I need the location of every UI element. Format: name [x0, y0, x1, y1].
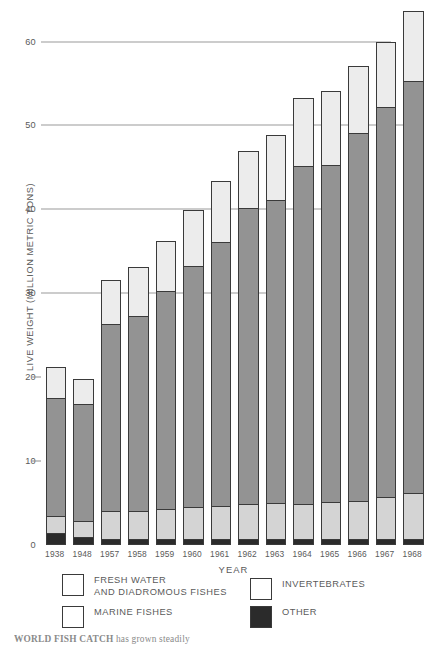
bar-1960: [183, 210, 204, 545]
bar-segment-other-1960: [183, 539, 204, 545]
legend-label-marine: MARINE FISHES: [94, 606, 173, 619]
bar-segment-marine-1963: [266, 200, 287, 503]
bar-segment-fresh-1964: [293, 504, 314, 539]
bar-segment-invert-1958: [128, 267, 149, 316]
y-tick-label-60: 60: [25, 37, 41, 47]
fish-catch-chart-figure: LIVE WEIGHT (MILLION METRIC TONS) 010203…: [0, 0, 432, 646]
legend-item-other: OTHER: [250, 606, 317, 628]
legend-swatch-invert: [250, 578, 272, 600]
y-tick-mark-10: [32, 461, 41, 462]
bar-1965: [321, 91, 342, 545]
legend-label-line1: INVERTEBRATES: [282, 579, 365, 591]
bar-1958: [128, 267, 149, 545]
bar-segment-fresh-1966: [348, 501, 369, 539]
bar-segment-marine-1960: [183, 266, 204, 508]
x-tick-label-1968: 1968: [399, 549, 427, 559]
legend-label-invert: INVERTEBRATES: [282, 578, 365, 591]
bar-1968: [403, 11, 424, 545]
bar-1963: [266, 135, 287, 545]
bar-segment-marine-1957: [101, 324, 122, 510]
legend-label-fresh: FRESH WATERAND DIADROMOUS FISHES: [94, 574, 227, 598]
bar-segment-fresh-1967: [376, 497, 397, 539]
legend-label-line1: MARINE FISHES: [94, 607, 173, 619]
bar-segment-fresh-1961: [211, 506, 232, 540]
bar-segment-marine-1965: [321, 165, 342, 502]
y-axis-title: LIVE WEIGHT (MILLION METRIC TONS): [25, 152, 35, 402]
bar-segment-fresh-1968: [403, 493, 424, 539]
bar-segment-invert-1963: [266, 135, 287, 200]
bar-segment-other-1965: [321, 539, 342, 545]
x-tick-label-1961: 1961: [206, 549, 234, 559]
bar-segment-other-1966: [348, 539, 369, 545]
legend-swatch-other: [250, 606, 272, 628]
bar-1966: [348, 66, 369, 545]
y-tick-label-30: 30: [25, 288, 41, 298]
bar-segment-marine-1959: [156, 291, 177, 509]
bar-segment-invert-1961: [211, 181, 232, 242]
legend-item-marine: MARINE FISHES: [62, 606, 173, 628]
bar-segment-other-1959: [156, 539, 177, 545]
legend-label-other: OTHER: [282, 606, 317, 619]
bar-1964: [293, 98, 314, 545]
bar-1961: [211, 181, 232, 545]
bar-1959: [156, 241, 177, 545]
x-tick-label-1938: 1938: [41, 549, 69, 559]
bar-segment-fresh-1958: [128, 511, 149, 540]
bar-segment-fresh-1948: [73, 521, 94, 537]
x-tick-label-1948: 1948: [69, 549, 97, 559]
bar-segment-other-1963: [266, 539, 287, 545]
x-tick-label-1960: 1960: [179, 549, 207, 559]
bar-segment-invert-1962: [238, 151, 259, 208]
y-tick-mark-20: [32, 377, 41, 378]
bar-segment-invert-1960: [183, 210, 204, 265]
bar-segment-marine-1968: [403, 81, 424, 493]
bar-segment-fresh-1962: [238, 504, 259, 539]
bar-segment-invert-1968: [403, 11, 424, 81]
bar-segment-other-1962: [238, 539, 259, 545]
bar-segment-invert-1964: [293, 98, 314, 166]
x-tick-label-1962: 1962: [234, 549, 262, 559]
bar-segment-marine-1964: [293, 166, 314, 504]
bar-1938: [46, 367, 67, 545]
bar-segment-marine-1961: [211, 242, 232, 505]
y-tick-label-40: 40: [25, 204, 41, 214]
bar-1962: [238, 151, 259, 545]
bar-segment-other-1938: [46, 533, 67, 545]
bar-segment-other-1957: [101, 539, 122, 545]
x-tick-label-1965: 1965: [316, 549, 344, 559]
bar-segment-fresh-1938: [46, 516, 67, 534]
legend-item-fresh: FRESH WATERAND DIADROMOUS FISHES: [62, 574, 227, 598]
caption-rest: has grown steadily: [113, 634, 189, 644]
bar-segment-invert-1965: [321, 91, 342, 165]
bar-segment-invert-1959: [156, 241, 177, 291]
bar-segment-invert-1957: [101, 280, 122, 324]
legend-item-invert: INVERTEBRATES: [250, 578, 365, 600]
x-tick-label-1958: 1958: [124, 549, 152, 559]
x-tick-label-1963: 1963: [261, 549, 289, 559]
plot-area: 0102030405060 19381948195719581959196019…: [41, 8, 426, 545]
y-tick-label-50: 50: [25, 120, 41, 130]
bar-segment-other-1958: [128, 539, 149, 545]
bar-segment-fresh-1965: [321, 502, 342, 539]
x-tick-label-1964: 1964: [289, 549, 317, 559]
legend-swatch-fresh: [62, 574, 84, 596]
bar-segment-marine-1967: [376, 107, 397, 497]
bar-segment-marine-1966: [348, 133, 369, 501]
bar-segment-marine-1938: [46, 398, 67, 515]
bar-segment-other-1964: [293, 539, 314, 545]
bar-segment-fresh-1960: [183, 507, 204, 539]
bar-segment-fresh-1959: [156, 509, 177, 539]
bar-1967: [376, 42, 397, 545]
chart-legend: FRESH WATERAND DIADROMOUS FISHESINVERTEB…: [0, 572, 432, 630]
bar-segment-marine-1958: [128, 316, 149, 511]
bar-segment-marine-1962: [238, 208, 259, 504]
legend-swatch-marine: [62, 606, 84, 628]
bar-segment-fresh-1957: [101, 511, 122, 540]
x-tick-label-1967: 1967: [371, 549, 399, 559]
bar-segment-other-1967: [376, 539, 397, 545]
bar-1957: [101, 280, 122, 545]
bar-1948: [73, 379, 94, 545]
bar-segment-invert-1938: [46, 367, 67, 398]
figure-caption: WORLD FISH CATCH has grown steadily: [14, 634, 424, 644]
x-tick-label-1966: 1966: [344, 549, 372, 559]
